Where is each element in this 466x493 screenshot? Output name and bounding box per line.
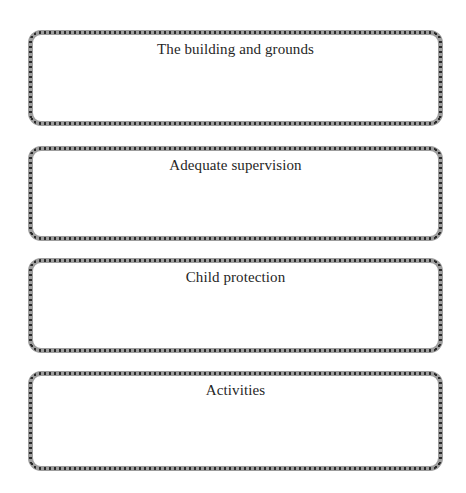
corner-dot-icon [438, 152, 440, 154]
answer-box-title: Child protection [33, 267, 438, 287]
answer-writing-area[interactable] [41, 61, 430, 117]
answer-box[interactable]: Activities [28, 371, 443, 471]
answer-box-interior: The building and grounds [33, 35, 438, 121]
corner-dot-icon [31, 233, 33, 235]
corner-dot-icon [438, 377, 440, 379]
answer-box-title: The building and grounds [33, 39, 438, 59]
corner-dot-icon [435, 33, 437, 35]
corner-dot-icon [438, 345, 440, 347]
answer-writing-area[interactable] [41, 177, 430, 232]
corner-dot-icon [34, 348, 36, 350]
corner-dot-icon [31, 264, 33, 266]
answer-writing-area[interactable] [41, 289, 430, 344]
corner-dot-icon [435, 261, 437, 263]
corner-dot-icon [31, 377, 33, 379]
answer-box[interactable]: Adequate supervision [28, 146, 443, 241]
corner-dot-icon [438, 463, 440, 465]
corner-dot-icon [34, 236, 36, 238]
corner-dot-icon [34, 466, 36, 468]
corner-dot-icon [34, 374, 36, 376]
worksheet-canvas: The building and grounds Adequate superv… [0, 0, 466, 493]
corner-dot-icon [435, 121, 437, 123]
corner-dot-icon [34, 121, 36, 123]
answer-box-title: Activities [33, 380, 438, 400]
corner-dot-icon [31, 36, 33, 38]
corner-dot-icon [435, 149, 437, 151]
corner-dot-icon [435, 374, 437, 376]
corner-dot-icon [34, 261, 36, 263]
corner-dot-icon [438, 118, 440, 120]
corner-dot-icon [435, 236, 437, 238]
corner-dot-icon [34, 33, 36, 35]
corner-dot-icon [31, 345, 33, 347]
answer-box[interactable]: The building and grounds [28, 30, 443, 126]
corner-dot-icon [438, 36, 440, 38]
corner-dot-icon [34, 149, 36, 151]
corner-dot-icon [438, 264, 440, 266]
corner-dot-icon [31, 463, 33, 465]
answer-box-interior: Child protection [33, 263, 438, 348]
corner-dot-icon [435, 466, 437, 468]
corner-dot-icon [438, 233, 440, 235]
corner-dot-icon [31, 152, 33, 154]
answer-writing-area[interactable] [41, 402, 430, 462]
corner-dot-icon [31, 118, 33, 120]
answer-box-interior: Activities [33, 376, 438, 466]
answer-box[interactable]: Child protection [28, 258, 443, 353]
answer-box-interior: Adequate supervision [33, 151, 438, 236]
corner-dot-icon [435, 348, 437, 350]
answer-box-title: Adequate supervision [33, 155, 438, 175]
